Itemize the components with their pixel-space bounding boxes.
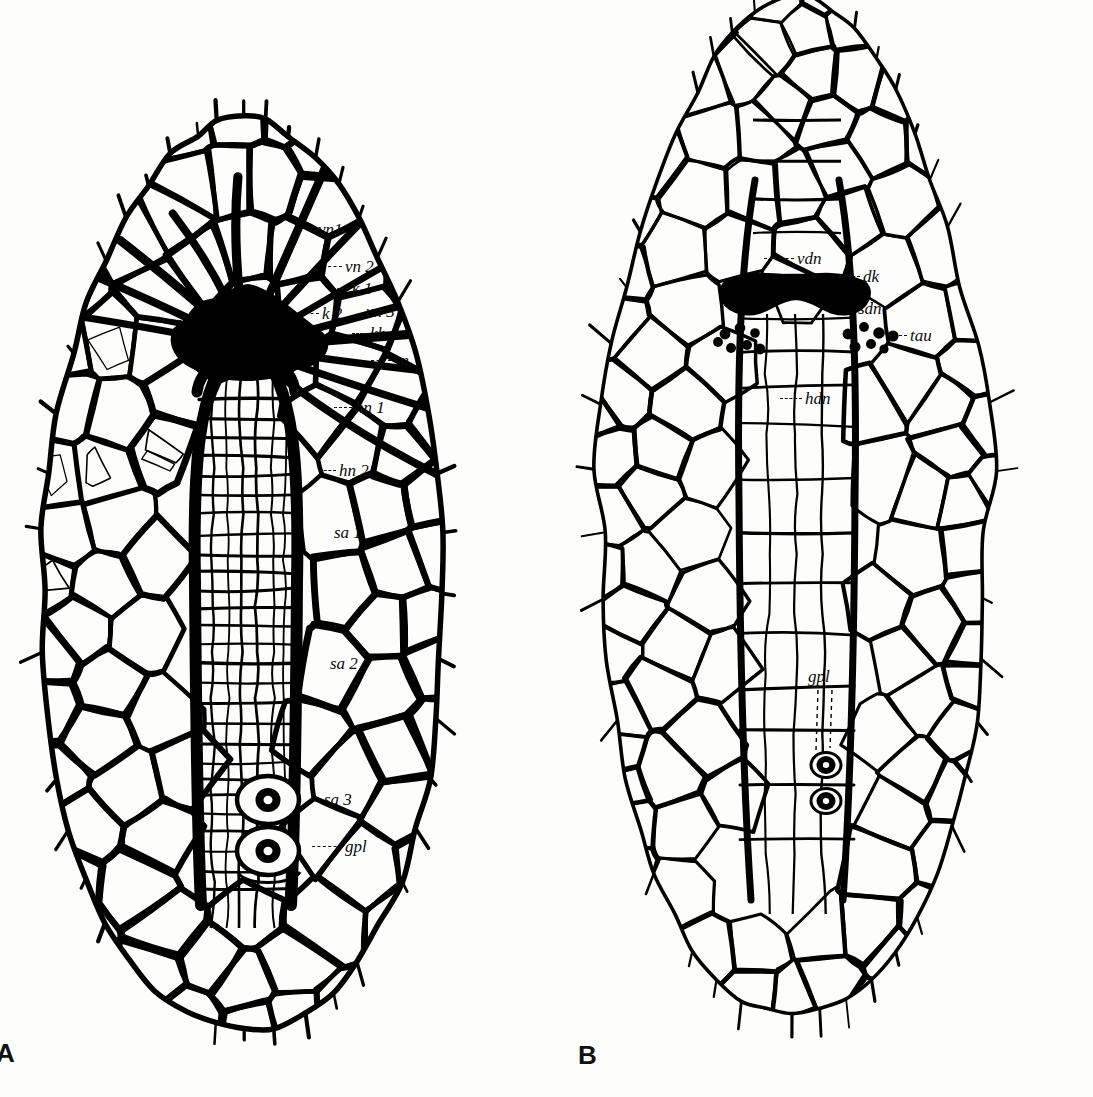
label-panel-a-vn1: vn1 bbox=[318, 221, 343, 238]
label-panel-b-sdn: sdn bbox=[858, 300, 882, 317]
panel-a-drawing bbox=[0, 78, 597, 1047]
leader-line-vdn bbox=[764, 258, 794, 259]
label-panel-a-k1: k 1 bbox=[352, 280, 372, 297]
leader-line-k1 bbox=[333, 288, 349, 289]
leader-line-tau bbox=[889, 335, 907, 336]
panel-letter-a: A bbox=[0, 1040, 15, 1066]
figure-canvas: A B vn1vn 2k 1k 2vn 3khsnhn 1hn 2sa 1sa … bbox=[0, 0, 1093, 1097]
label-panel-a-vn3: vn 3 bbox=[366, 303, 395, 320]
label-panel-b-gpl: gpl bbox=[808, 668, 830, 685]
label-panel-a-k2: k 2 bbox=[322, 305, 342, 322]
label-panel-a-vn2: vn 2 bbox=[345, 258, 374, 275]
panel-b-drawing bbox=[577, 0, 1018, 1042]
leader-line-gpl bbox=[312, 846, 342, 847]
leader-line-dk bbox=[838, 276, 860, 277]
panel-letter-b: B bbox=[578, 1042, 597, 1068]
leader-line-hdn bbox=[780, 398, 802, 399]
label-panel-a-sa2: sa 2 bbox=[330, 655, 358, 672]
leader-line-vn2 bbox=[328, 266, 342, 267]
anatomical-illustration bbox=[0, 0, 1093, 1097]
label-panel-b-tau: tau bbox=[910, 327, 932, 344]
label-panel-a-gpl: gpl bbox=[345, 838, 367, 855]
label-panel-a-sn: sn bbox=[394, 352, 409, 369]
label-panel-b-vdn: vdn bbox=[797, 250, 822, 267]
label-panel-a-hn2: hn 2 bbox=[339, 462, 369, 479]
leader-line-k2 bbox=[305, 313, 319, 314]
label-panel-a-sa1: sa 1 bbox=[334, 524, 362, 541]
leader-line-hn2 bbox=[319, 470, 336, 471]
leader-line-hn1 bbox=[334, 407, 352, 408]
label-panel-a-sa3: sa 3 bbox=[324, 791, 352, 808]
leader-line-kh bbox=[352, 333, 367, 334]
label-panel-a-kh: kh bbox=[370, 325, 386, 342]
label-panel-a-hn1: hn 1 bbox=[355, 399, 385, 416]
label-panel-b-dk: dk bbox=[863, 268, 879, 285]
leader-line-sn bbox=[371, 360, 391, 361]
label-panel-b-hdn: hdn bbox=[805, 390, 831, 407]
